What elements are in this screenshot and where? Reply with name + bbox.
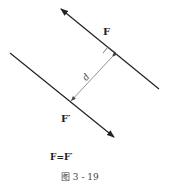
force-bottom-label: F′ [61, 113, 71, 124]
equation-label: F=F′ [50, 152, 73, 162]
distance-line [71, 57, 112, 101]
force-line-top [61, 9, 159, 89]
figure-caption: 图 3 - 19 [61, 172, 99, 182]
couple-diagram: F d F′ F=F′ 图 3 - 19 [0, 0, 169, 187]
force-line-bottom [10, 53, 114, 137]
force-top-label: F [103, 26, 110, 37]
